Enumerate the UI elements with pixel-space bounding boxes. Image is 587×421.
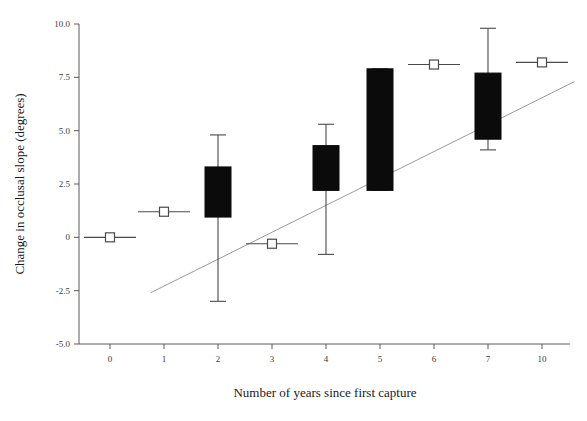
box-plot-item — [205, 135, 231, 301]
x-tick-label: 5 — [378, 354, 383, 364]
box-plot-item — [516, 58, 568, 67]
box-plot-series — [84, 28, 568, 301]
median-point-marker — [106, 233, 115, 242]
y-tick-label: -2.5 — [56, 286, 71, 296]
y-tick-label: 2.5 — [59, 179, 71, 189]
x-tick-label: 0 — [108, 354, 113, 364]
y-tick-label: 10.0 — [54, 19, 70, 29]
x-tick-label: 7 — [486, 354, 491, 364]
box-plot-item — [408, 60, 460, 69]
box-plot-item — [475, 28, 501, 150]
median-point-marker — [430, 60, 439, 69]
box-plot-item — [367, 69, 393, 191]
median-point-marker — [160, 207, 169, 216]
x-axis-title: Number of years since first capture — [233, 385, 416, 400]
y-tick-label: 0 — [66, 232, 71, 242]
y-axis-ticks: 10.07.55.02.50-2.5-5.0 — [54, 19, 79, 349]
interquartile-box — [367, 69, 393, 191]
box-plot-item — [84, 233, 136, 242]
y-tick-label: 7.5 — [59, 72, 71, 82]
x-tick-label: 4 — [324, 354, 329, 364]
x-axis-ticks: 0123456710 — [108, 344, 547, 364]
box-plot-item — [246, 239, 298, 248]
y-tick-label: -5.0 — [56, 339, 71, 349]
median-point-marker — [538, 58, 547, 67]
chart-canvas: 10.07.55.02.50-2.5-5.0 0123456710 Number… — [0, 0, 587, 421]
y-tick-label: 5.0 — [59, 126, 71, 136]
x-tick-label: 10 — [538, 354, 548, 364]
y-axis-title: Change in occlusal slope (degrees) — [12, 93, 27, 274]
median-point-marker — [268, 239, 277, 248]
box-plot-item — [138, 207, 190, 216]
interquartile-box — [475, 73, 501, 139]
box-plot-item — [313, 124, 339, 254]
interquartile-box — [313, 146, 339, 191]
interquartile-box — [205, 167, 231, 217]
x-tick-label: 1 — [162, 354, 167, 364]
x-tick-label: 2 — [216, 354, 221, 364]
box-plot-chart: 10.07.55.02.50-2.5-5.0 0123456710 Number… — [0, 0, 587, 421]
x-tick-label: 6 — [432, 354, 437, 364]
x-tick-label: 3 — [270, 354, 275, 364]
